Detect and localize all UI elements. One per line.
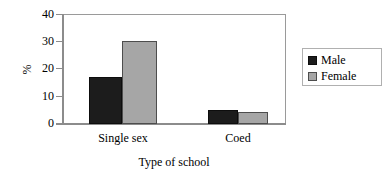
y-tick-mark-30: [56, 41, 62, 42]
legend-item-male: Male: [308, 52, 377, 68]
legend-label-female: Female: [321, 70, 356, 83]
y-tick-mark-0: [56, 123, 62, 124]
legend-label-male: Male: [321, 54, 346, 67]
y-tick-label-0: 0: [48, 117, 54, 129]
y-axis-line: [62, 14, 64, 124]
x-category-label-single-sex: Single sex: [73, 131, 173, 146]
y-tick-mark-40: [56, 14, 62, 15]
y-tick-label-30: 30: [42, 35, 54, 47]
bar-single-sex-female: [122, 41, 157, 124]
y-tick-label-10: 10: [42, 90, 54, 102]
y-axis-title: %: [20, 55, 35, 85]
legend-swatch-male-icon: [308, 56, 317, 65]
legend-swatch-female-icon: [308, 72, 317, 81]
x-category-label-coed: Coed: [188, 131, 288, 146]
legend-item-female: Female: [308, 68, 377, 84]
bar-chart: 40 30 20 10 0 % Single sex Coed Type of …: [0, 0, 388, 183]
y-tick-label-20: 20: [42, 62, 54, 74]
bar-coed-female: [238, 112, 268, 124]
y-tick-mark-20: [56, 68, 62, 69]
x-axis-title: Type of school: [62, 155, 286, 170]
legend: Male Female: [302, 48, 382, 86]
bar-coed-male: [208, 110, 238, 124]
y-tick-mark-10: [56, 96, 62, 97]
y-tick-label-40: 40: [42, 8, 54, 20]
bar-single-sex-male: [89, 77, 122, 124]
